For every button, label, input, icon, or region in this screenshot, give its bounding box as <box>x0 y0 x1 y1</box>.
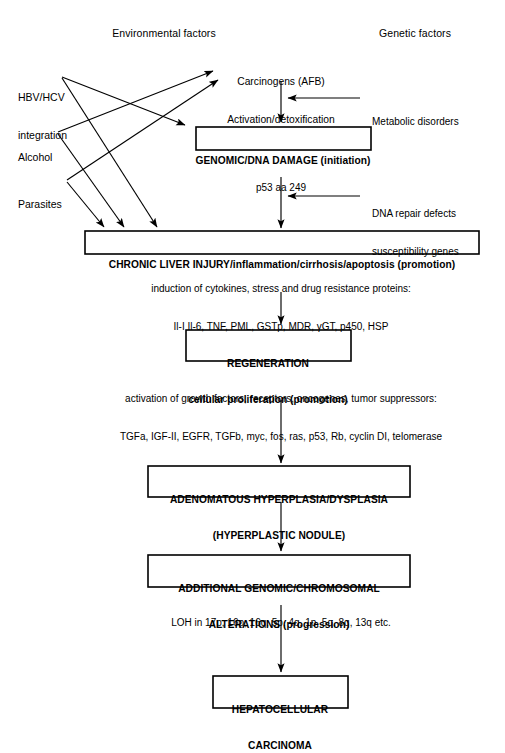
node-label-hepatocellular-carcinoma: HEPATOCELLULAR CARCINOMA <box>210 681 350 753</box>
carcinogens-line2: Activation/detoxification <box>227 114 335 127</box>
arrow-hbv-to-genomic <box>62 77 185 125</box>
hcc-line2: CARCINOMA <box>210 740 350 752</box>
annotation-p53: p53 aa 249 <box>181 157 381 220</box>
carcinogens-line1: Carcinogens (AFB) <box>227 76 335 89</box>
side-input-metabolic-disorders: Metabolic disorders <box>372 91 459 154</box>
annotation-loh: LOH in 17p, 16p, 16q, 5p, 4q, 1p, 5q, 8q… <box>111 592 451 655</box>
node-label-adenomatous-hyperplasia: ADENOMATOUS HYPERPLASIA/DYSPLASIA (HYPER… <box>146 471 412 565</box>
annotation-cytokines: induction of cytokines, stress and drug … <box>71 258 491 358</box>
cytokines-line2: Il-I Il-6, TNF, PML, GSTp, MDR, γGT, p45… <box>71 321 491 334</box>
p53-line1: p53 aa 249 <box>181 182 381 195</box>
metabolic-disorders-line1: Metabolic disorders <box>372 116 459 129</box>
source-label-parasites: Parasites <box>18 173 62 236</box>
header-environmental-factors: Environmental factors <box>112 27 216 39</box>
source-parasites-line1: Parasites <box>18 198 62 211</box>
loh-line1: LOH in 17p, 16p, 16q, 5p, 4q, 1p, 5q, 8q… <box>111 617 451 630</box>
source-alcohol-line1: Alcohol <box>18 151 52 164</box>
cytokines-line1: induction of cytokines, stress and drug … <box>71 283 491 296</box>
dna-repair-line1: DNA repair defects <box>372 208 459 221</box>
hcc-line1: HEPATOCELLULAR <box>210 704 350 716</box>
growth-factors-line2: TGFa, IGF-II, EGFR, TGFb, myc, fos, ras,… <box>46 431 505 444</box>
arrow-alcohol-to-chronic-liver-injury <box>58 134 124 227</box>
source-hbv-line1: HBV/HCV <box>18 91 67 104</box>
adenomatous-line1: ADENOMATOUS HYPERPLASIA/DYSPLASIA <box>146 494 412 506</box>
arrow-alcohol-to-carcinogens <box>58 71 213 132</box>
growth-factors-line1: activation of growth factors, receptors,… <box>46 393 505 406</box>
header-genetic-factors: Genetic factors <box>379 27 451 39</box>
arrow-parasites-to-chronic-liver-injury <box>67 182 104 227</box>
adenomatous-line2: (HYPERPLASTIC NODULE) <box>146 530 412 542</box>
annotation-growth-factors: activation of growth factors, receptors,… <box>46 368 505 468</box>
